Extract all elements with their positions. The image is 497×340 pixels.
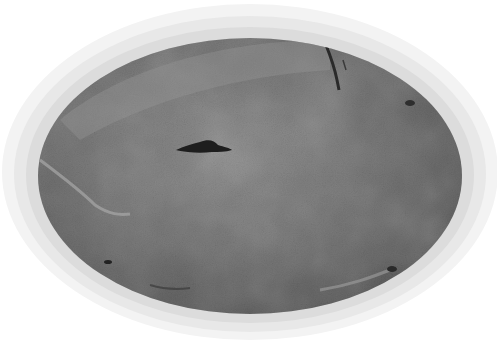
photo-frame: Grayscale photograph of a weathered ston… xyxy=(0,0,497,340)
stone-photo xyxy=(0,0,497,340)
